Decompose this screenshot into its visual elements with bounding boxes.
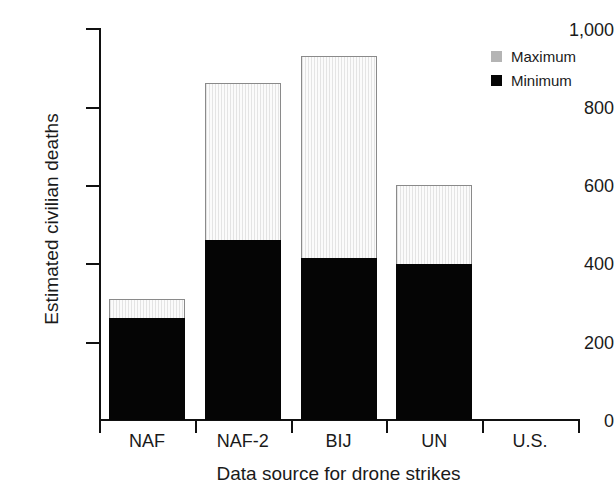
legend-label-minimum: Minimum xyxy=(511,72,572,89)
x-axis-title: Data source for drone strikes xyxy=(99,463,578,485)
x-tick-naf xyxy=(195,419,197,433)
legend-item-minimum: Minimum xyxy=(491,70,576,91)
x-axis-start-cap xyxy=(99,419,101,433)
legend-item-maximum: Maximum xyxy=(491,46,576,67)
x-axis-label-naf: NAF xyxy=(129,431,165,452)
x-axis-label-u-s-: U.S. xyxy=(513,431,548,452)
x-tick-naf-2 xyxy=(291,419,293,433)
bar-minimum-naf-2 xyxy=(205,240,281,420)
legend: Maximum Minimum xyxy=(491,46,576,94)
x-axis-label-naf-2: NAF-2 xyxy=(217,431,269,452)
y-tick-400 xyxy=(86,263,101,265)
bar-minimum-un xyxy=(396,264,472,420)
chart-figure: Estimated civilian deaths 1,000 800 600 … xyxy=(0,0,614,504)
y-tick-label-200: 200 xyxy=(542,333,614,354)
y-tick-label-1000: 1,000 xyxy=(542,20,614,41)
legend-label-maximum: Maximum xyxy=(511,48,576,65)
y-tick-600 xyxy=(86,185,101,187)
x-axis-end-cap xyxy=(578,419,580,433)
x-axis-label-un: UN xyxy=(421,431,447,452)
y-tick-label-600: 600 xyxy=(542,176,614,197)
y-axis-title: Estimated civilian deaths xyxy=(41,69,63,369)
x-axis-label-bij: BIJ xyxy=(325,431,351,452)
y-tick-label-400: 400 xyxy=(542,254,614,275)
legend-swatch-maximum xyxy=(491,51,502,62)
x-tick-un xyxy=(482,419,484,433)
bar-minimum-bij xyxy=(301,258,377,420)
y-axis-line xyxy=(99,29,101,421)
legend-swatch-minimum xyxy=(491,75,502,86)
bar-minimum-naf xyxy=(109,318,185,420)
y-tick-label-800: 800 xyxy=(542,98,614,119)
y-tick-800 xyxy=(86,107,101,109)
x-tick-bij xyxy=(386,419,388,433)
y-tick-200 xyxy=(86,342,101,344)
y-tick-1000 xyxy=(86,28,101,30)
